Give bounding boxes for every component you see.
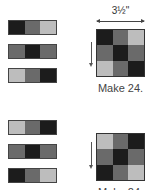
block-cell xyxy=(113,30,129,45)
block-cell xyxy=(128,30,144,45)
down-arrow-icon xyxy=(91,142,92,166)
strip-cell xyxy=(40,121,56,134)
strip-cell xyxy=(40,21,56,34)
block-cell xyxy=(97,61,113,76)
dimension-label: 3½" xyxy=(96,5,145,16)
block-cell xyxy=(128,134,144,149)
strip-bottom-1 xyxy=(8,120,57,135)
block-cell xyxy=(97,149,113,164)
strip-top-1 xyxy=(8,20,57,35)
down-arrow-icon xyxy=(91,42,92,64)
strip-cell xyxy=(25,145,41,158)
strip-cell xyxy=(9,21,25,34)
strip-cell xyxy=(25,121,41,134)
block-cell xyxy=(113,165,129,180)
block-cell xyxy=(128,45,144,60)
strip-cell xyxy=(9,145,25,158)
block-cell xyxy=(113,61,129,76)
strip-cell xyxy=(9,121,25,134)
strip-top-2 xyxy=(8,44,57,59)
strip-bottom-2 xyxy=(8,144,57,159)
block-cell xyxy=(128,165,144,180)
block-cell xyxy=(97,45,113,60)
block-cell xyxy=(128,61,144,76)
strip-cell xyxy=(9,69,25,82)
block-cell xyxy=(113,149,129,164)
strip-top-3 xyxy=(8,68,57,83)
block-cell xyxy=(113,45,129,60)
strip-cell xyxy=(25,169,41,182)
strip-cell xyxy=(40,69,56,82)
strip-cell xyxy=(9,45,25,58)
strip-cell xyxy=(25,45,41,58)
nine-patch-block-top xyxy=(96,29,145,77)
caption-bottom: Make 24. xyxy=(96,186,145,190)
strip-cell xyxy=(40,145,56,158)
caption-top: Make 24. xyxy=(96,82,145,94)
block-cell xyxy=(97,134,113,149)
strip-cell xyxy=(9,169,25,182)
strip-cell xyxy=(40,169,56,182)
block-cell xyxy=(113,134,129,149)
block-cell xyxy=(97,165,113,180)
dimension-arrow-icon xyxy=(97,21,144,22)
strip-cell xyxy=(25,21,41,34)
block-cell xyxy=(128,149,144,164)
strip-cell xyxy=(40,45,56,58)
block-cell xyxy=(97,30,113,45)
strip-bottom-3 xyxy=(8,168,57,183)
nine-patch-block-bottom xyxy=(96,133,145,181)
strip-cell xyxy=(25,69,41,82)
